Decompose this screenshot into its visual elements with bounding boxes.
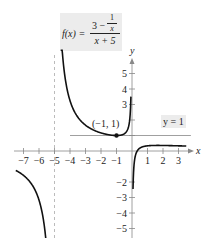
function-graph: f(x) = 3 − 1 x x + 5 y = 1 (−1, 1) xy−7−… <box>0 0 207 238</box>
x-tick-label: −3 <box>80 155 91 166</box>
y-tick-label: −4 <box>116 208 127 219</box>
y-tick-label: 3 <box>122 99 127 110</box>
y-tick-label: 5 <box>122 68 127 79</box>
y-tick-label: −5 <box>116 223 127 234</box>
y-axis-arrow-icon <box>130 58 135 64</box>
y-tick-label: 4 <box>122 84 127 95</box>
x-tick-label: −4 <box>65 155 76 166</box>
y-tick-label: −2 <box>116 177 127 188</box>
x-tick-label: −1 <box>111 155 122 166</box>
x-tick-label: 2 <box>161 155 166 166</box>
x-tick-label: 1 <box>145 155 150 166</box>
x-tick-label: −7 <box>18 155 29 166</box>
x-axis-label: x <box>195 145 201 156</box>
plot-area: xy−7−6−5−4−3−2−1123543−2−3−4−5 <box>0 0 207 238</box>
marked-point <box>114 133 118 137</box>
x-axis-arrow-icon <box>188 149 194 154</box>
x-tick-label: −6 <box>34 155 45 166</box>
y-axis-label: y <box>129 45 135 56</box>
curve-left-branch <box>16 170 54 238</box>
x-tick-label: −5 <box>49 155 60 166</box>
y-tick-label: −3 <box>116 192 127 203</box>
x-tick-label: 3 <box>176 155 181 166</box>
curve-middle-branch <box>61 50 131 135</box>
x-tick-label: −2 <box>96 155 107 166</box>
